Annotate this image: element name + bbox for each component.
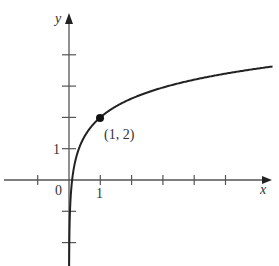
log-graph: (1, 2) y x 0 1 1 <box>0 0 279 266</box>
origin-label: 0 <box>55 183 62 198</box>
x-tick-label-1: 1 <box>96 186 103 201</box>
point-label: (1, 2) <box>104 127 135 143</box>
y-tick-label-1: 1 <box>53 142 60 157</box>
x-axis-label: x <box>259 182 267 197</box>
point-1-2 <box>96 114 104 122</box>
log-curve <box>69 67 272 266</box>
y-axis-arrow-icon <box>65 13 73 24</box>
axis-ticks <box>38 55 226 243</box>
y-axis-label: y <box>53 11 62 26</box>
